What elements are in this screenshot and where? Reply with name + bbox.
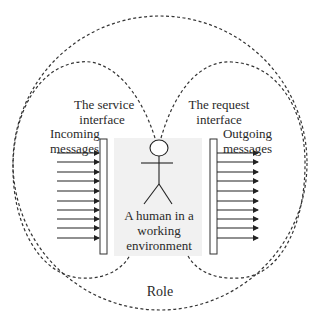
service-interface-bar (100, 139, 107, 254)
incoming-messages-label: Incoming messages (50, 127, 100, 155)
role-diagram (0, 0, 318, 328)
request-interface-bar (210, 139, 217, 254)
outgoing-messages-label: Outgoing messages (220, 127, 272, 155)
request-interface-label: The request interface (188, 98, 250, 126)
role-label: Role (138, 285, 182, 298)
incoming-arrows (57, 153, 99, 238)
human-label: A human in a working environment (114, 209, 204, 252)
service-interface-label: The service interface (74, 98, 130, 126)
outgoing-arrows (217, 153, 258, 238)
